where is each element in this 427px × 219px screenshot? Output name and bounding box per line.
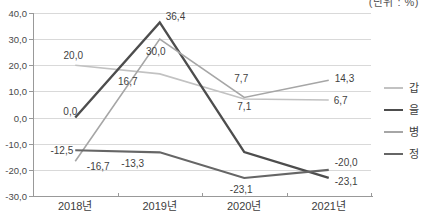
line-chart: 40,030,020,010,00,0-10,0-20,0-30,02018년2… bbox=[0, 0, 427, 219]
data-label-series-1: 36,4 bbox=[166, 11, 186, 22]
y-axis-label: -10,0 bbox=[5, 139, 27, 150]
y-axis-label: 30,0 bbox=[9, 34, 28, 45]
y-axis-label: 10,0 bbox=[9, 86, 28, 97]
data-label-series-1: 0,0 bbox=[63, 106, 77, 117]
y-axis-label: -20,0 bbox=[5, 165, 27, 176]
data-label-series-2: 14,3 bbox=[335, 73, 355, 84]
y-axis-label: 0,0 bbox=[14, 113, 27, 124]
data-label-series-2: 30,0 bbox=[146, 46, 166, 57]
legend-label: 정 bbox=[409, 149, 419, 160]
legend-label: 을 bbox=[409, 105, 419, 116]
series-line-3 bbox=[75, 150, 329, 178]
data-label-series-0: 16,7 bbox=[118, 76, 138, 87]
legend-item-0: 갑 bbox=[384, 77, 419, 99]
legend: 갑을병정 bbox=[384, 77, 419, 165]
legend-line-swatch bbox=[384, 87, 403, 89]
legend-line-swatch bbox=[384, 109, 403, 111]
legend-item-2: 병 bbox=[384, 121, 419, 143]
legend-item-1: 을 bbox=[384, 99, 419, 121]
series-line-0 bbox=[75, 65, 329, 100]
data-label-series-2: -16,7 bbox=[87, 161, 110, 172]
legend-label: 병 bbox=[409, 127, 419, 138]
y-axis-label: -30,0 bbox=[5, 191, 27, 202]
x-axis-label: 2019년 bbox=[143, 200, 177, 212]
legend-line-swatch bbox=[384, 131, 403, 133]
data-label-series-3: -23,1 bbox=[230, 184, 253, 195]
data-label-series-3: -13,3 bbox=[121, 158, 144, 169]
data-label-series-3: -12,5 bbox=[50, 145, 73, 156]
x-axis-label: 2021년 bbox=[312, 200, 346, 212]
legend-item-3: 정 bbox=[384, 143, 419, 165]
legend-line-swatch bbox=[384, 153, 403, 155]
data-label-series-0: 20,0 bbox=[64, 50, 84, 61]
legend-label: 갑 bbox=[409, 83, 419, 94]
data-label-series-3: -20,0 bbox=[335, 157, 358, 168]
x-axis-label: 2018년 bbox=[58, 200, 92, 212]
x-axis-label: 2020년 bbox=[227, 200, 261, 212]
chart-container: (단위 : %) 40,030,020,010,00,0-10,0-20,0-3… bbox=[0, 0, 427, 219]
y-axis-label: 40,0 bbox=[9, 8, 28, 19]
data-label-series-0: 6,7 bbox=[334, 95, 348, 106]
y-axis-label: 20,0 bbox=[9, 60, 28, 71]
data-label-series-2: 7,7 bbox=[234, 73, 248, 84]
data-label-series-0: 7,1 bbox=[237, 101, 251, 112]
data-label-series-1: -23,1 bbox=[335, 176, 358, 187]
